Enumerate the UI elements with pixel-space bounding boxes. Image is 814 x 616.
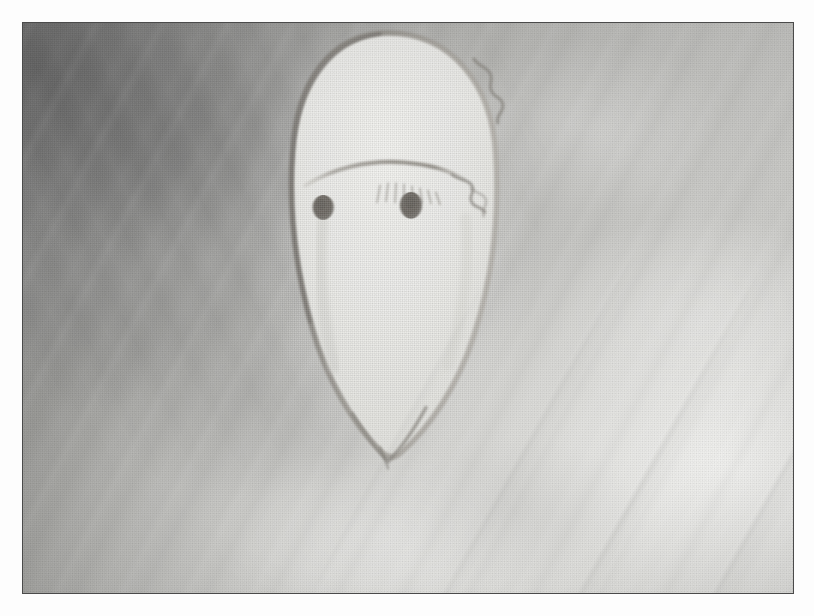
screenshot-root: Untitled — Face painting A pale elongate… xyxy=(0,0,814,616)
edge-vignette xyxy=(23,23,793,593)
artwork-canvas xyxy=(22,22,794,594)
